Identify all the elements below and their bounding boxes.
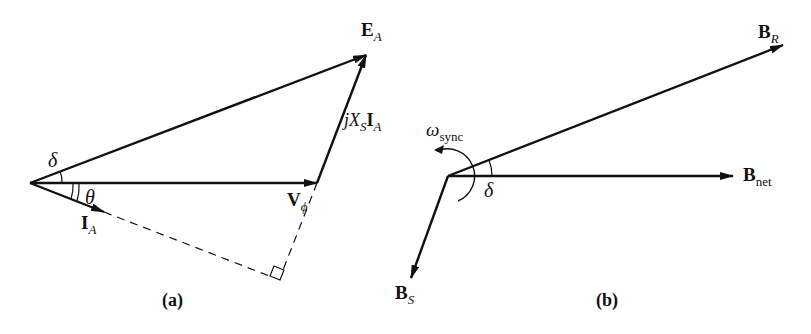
theta-label: θ xyxy=(85,187,95,207)
b-r-label: BR xyxy=(758,22,779,41)
b-r-vector xyxy=(448,45,783,176)
panel-b xyxy=(411,45,783,278)
delta-label-a: δ xyxy=(48,150,57,170)
dashed-projection-ia xyxy=(104,212,272,277)
i-a-label: IA xyxy=(81,213,96,232)
omega-sync-label: ωsync xyxy=(426,120,463,139)
e-a-vector xyxy=(30,55,366,183)
b-s-label: BS xyxy=(395,283,414,302)
panel-a xyxy=(30,55,366,280)
delta-arc-b xyxy=(489,160,492,176)
delta-arc-a xyxy=(60,171,62,183)
omega-arrowhead xyxy=(434,145,444,154)
v-phi-label: Vϕ xyxy=(287,190,307,209)
right-angle-marker xyxy=(270,266,284,280)
b-s-vector xyxy=(411,176,448,278)
e-a-label: EA xyxy=(361,20,382,39)
theta-arc-a-2 xyxy=(77,183,79,201)
caption-a: (a) xyxy=(162,290,183,311)
theta-arc-a-1 xyxy=(71,183,73,199)
caption-b: (b) xyxy=(596,290,618,311)
delta-label-b: δ xyxy=(484,180,493,200)
jxs-ia-label: jXSIA xyxy=(344,111,381,129)
b-net-label: Bnet xyxy=(743,165,772,184)
